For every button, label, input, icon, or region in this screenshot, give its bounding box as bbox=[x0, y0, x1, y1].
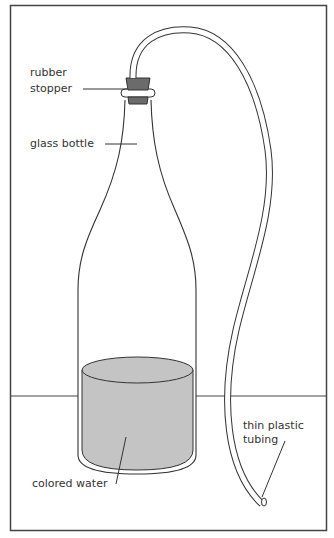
label-tubing-line2: tubing bbox=[243, 433, 278, 446]
label-rubber-line1: rubber bbox=[30, 66, 67, 79]
tubing-end bbox=[262, 498, 267, 506]
rubber-stopper-lower bbox=[128, 97, 148, 104]
label-colored-water: colored water bbox=[32, 477, 108, 490]
rubber-stopper bbox=[126, 78, 150, 90]
leader-tubing bbox=[262, 441, 285, 497]
bottle-diagram: rubber stopper glass bottle colored wate… bbox=[0, 0, 334, 538]
label-rubber-line2: stopper bbox=[30, 82, 73, 95]
water-surface bbox=[82, 357, 193, 383]
colored-water bbox=[82, 370, 193, 470]
label-tubing-line1: thin plastic bbox=[243, 419, 304, 432]
label-glass-bottle: glass bottle bbox=[30, 137, 94, 150]
